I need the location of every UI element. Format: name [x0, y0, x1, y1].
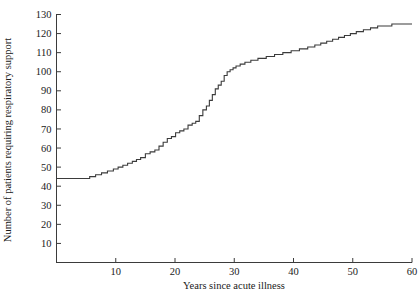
- x-tick-label: 30: [229, 266, 240, 277]
- y-tick-label: 110: [36, 47, 51, 58]
- chart-figure: 102030405060708090100110120130 102030405…: [0, 0, 419, 297]
- y-tick-label: 50: [41, 162, 52, 173]
- x-tick-label: 20: [170, 266, 181, 277]
- y-tick-label: 40: [41, 181, 52, 192]
- step-chart-svg: 102030405060708090100110120130 102030405…: [0, 0, 419, 297]
- x-tick-label: 60: [407, 266, 418, 277]
- y-tick-label: 130: [36, 9, 52, 20]
- x-tick-label: 10: [111, 266, 122, 277]
- y-tick-label: 100: [36, 66, 52, 77]
- x-axis-title: Years since acute illness: [183, 280, 285, 291]
- x-tick-label: 50: [348, 266, 359, 277]
- y-tick-label: 90: [41, 85, 52, 96]
- y-tick-label: 20: [41, 219, 52, 230]
- y-tick-label: 120: [36, 28, 52, 39]
- y-axis-title: Number of patients requiring respiratory…: [2, 38, 13, 242]
- y-tick-label: 70: [41, 124, 52, 135]
- x-tick-label: 40: [288, 266, 299, 277]
- y-tick-label: 60: [41, 143, 52, 154]
- y-tick-label: 10: [41, 238, 52, 249]
- y-tick-label: 30: [41, 200, 52, 211]
- y-tick-label: 80: [41, 104, 52, 115]
- chart-background: [0, 0, 419, 297]
